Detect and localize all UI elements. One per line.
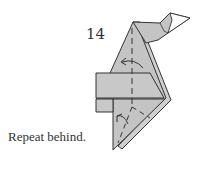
wing-lower-stub (96, 99, 113, 112)
head-white-tip (168, 13, 190, 33)
caption-repeat-behind: Repeat behind. (8, 129, 86, 145)
